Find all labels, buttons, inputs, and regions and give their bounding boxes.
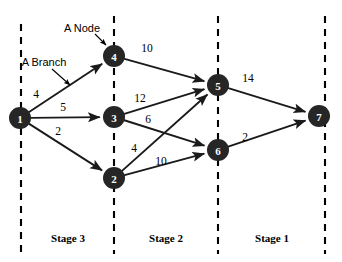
- node-label-3: 3: [111, 112, 117, 124]
- stage-label-2: Stage 2: [149, 232, 183, 244]
- node-label-2: 2: [111, 173, 117, 185]
- node-2: 2: [103, 167, 125, 189]
- branch-weight-1-4: 4: [33, 88, 39, 100]
- branch-weight-1-3: 5: [60, 101, 66, 113]
- stage-labels: Stage 3Stage 2Stage 1: [51, 232, 289, 244]
- branch-weight-1-2: 2: [55, 125, 61, 137]
- branch-weight-2-6: 10: [155, 155, 167, 167]
- branch-weight-3-6: 6: [145, 113, 151, 125]
- node-1: 1: [9, 107, 31, 129]
- node-7: 7: [308, 105, 330, 127]
- node-label-6: 6: [215, 145, 221, 157]
- network-diagram-figure: 45210126410142 1234567 Stage 3Stage 2Sta…: [0, 0, 342, 262]
- annotation-label-a-node: A Node: [64, 22, 100, 34]
- annotation-label-a-branch: A Branch: [22, 56, 67, 68]
- branch-weight-2-5: 4: [131, 142, 137, 154]
- stage-label-3: Stage 1: [255, 232, 289, 244]
- node-label-7: 7: [316, 111, 322, 123]
- branch-1-to-3: [30, 117, 100, 118]
- branch-4-to-5: [124, 59, 205, 81]
- node-5: 5: [207, 74, 229, 96]
- node-4: 4: [103, 45, 125, 67]
- branch-5-to-7: [228, 88, 306, 112]
- branch-weight-4-5: 10: [141, 42, 153, 54]
- node-6: 6: [207, 139, 229, 161]
- branch-1-to-2: [28, 123, 102, 170]
- node-label-1: 1: [17, 113, 23, 125]
- branch-6-to-7: [227, 121, 305, 147]
- annotation-leader-a-node: [95, 34, 106, 45]
- node-label-4: 4: [111, 51, 117, 63]
- network-branches: [28, 59, 305, 176]
- branch-weight-6-7: 2: [242, 131, 248, 143]
- annotation-leader-a-branch: [52, 69, 70, 85]
- stage-label-1: Stage 3: [51, 232, 85, 244]
- node-label-5: 5: [215, 80, 221, 92]
- network-diagram-canvas: 45210126410142 1234567 Stage 3Stage 2Sta…: [0, 0, 342, 262]
- callout-annotations: A NodeA Branch: [22, 22, 106, 85]
- node-3: 3: [103, 106, 125, 128]
- branch-weight-5-7: 14: [242, 72, 254, 84]
- branch-weight-3-5: 12: [134, 92, 146, 104]
